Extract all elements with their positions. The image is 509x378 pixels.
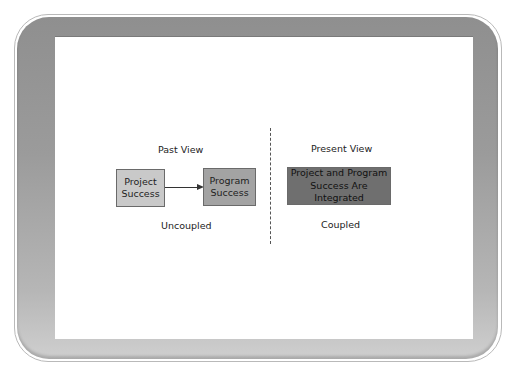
program-success-box: Program Success xyxy=(203,168,256,206)
project-success-box: Project Success xyxy=(116,169,165,207)
integrated-success-label: Project and Program Success Are Integrat… xyxy=(288,167,390,205)
present-view-heading: Present View xyxy=(311,143,372,154)
project-success-label: Project Success xyxy=(121,176,159,201)
integrated-success-box: Project and Program Success Are Integrat… xyxy=(287,167,391,205)
arrow-line xyxy=(165,187,201,188)
uncoupled-caption: Uncoupled xyxy=(161,220,212,231)
program-success-label: Program Success xyxy=(209,175,249,200)
past-view-heading: Past View xyxy=(158,144,203,155)
dashed-divider xyxy=(270,128,271,244)
coupled-caption: Coupled xyxy=(321,219,360,230)
